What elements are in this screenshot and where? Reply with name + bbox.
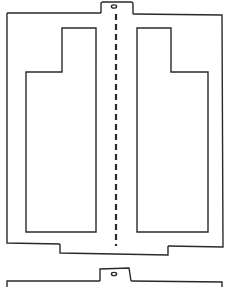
top-tab [101, 2, 133, 14]
right-cutout [137, 28, 208, 232]
left-cutout [26, 28, 96, 232]
second-panel [7, 268, 222, 287]
hole-icon [111, 5, 116, 8]
bottom-tab [60, 244, 168, 255]
panel-template-diagram [0, 0, 229, 287]
hole-icon [111, 272, 116, 275]
